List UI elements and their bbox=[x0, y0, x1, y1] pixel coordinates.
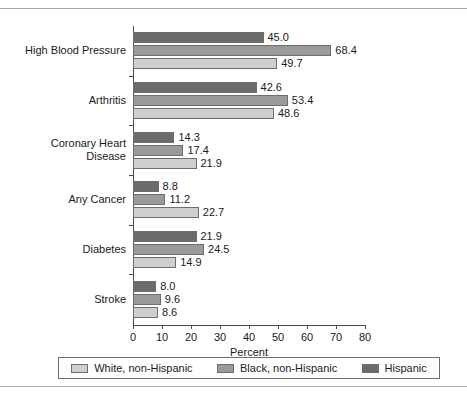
bar[interactable] bbox=[133, 281, 156, 292]
bar-row: 8.0 bbox=[133, 281, 365, 292]
x-axis-tick-label: 50 bbox=[266, 331, 290, 344]
legend-label: Hispanic bbox=[385, 362, 427, 375]
x-axis-tick bbox=[220, 325, 221, 329]
bar[interactable] bbox=[133, 181, 159, 192]
legend-item[interactable]: White, non-Hispanic bbox=[71, 362, 192, 375]
bar-row: 21.9 bbox=[133, 231, 365, 242]
bar-row: 21.9 bbox=[133, 158, 365, 169]
chart-legend: White, non-HispanicBlack, non-HispanicHi… bbox=[58, 357, 440, 379]
bar[interactable] bbox=[133, 95, 288, 106]
category-label: Any Cancer bbox=[0, 193, 126, 206]
x-axis-tick-label: 70 bbox=[324, 331, 348, 344]
bar-value-label: 8.6 bbox=[162, 305, 177, 319]
x-axis-tick bbox=[249, 325, 250, 329]
x-axis-tick-label: 40 bbox=[237, 331, 261, 344]
category-label: Coronary Heart Disease bbox=[0, 137, 126, 163]
x-axis-tick bbox=[365, 325, 366, 329]
x-axis-tick-label: 20 bbox=[179, 331, 203, 344]
bar[interactable] bbox=[133, 231, 197, 242]
bar-value-label: 14.9 bbox=[180, 255, 201, 269]
x-axis-tick bbox=[278, 325, 279, 329]
category-label: Arthritis bbox=[0, 94, 126, 107]
bar-group: 21.924.514.9 bbox=[133, 231, 365, 270]
y-axis-group-tick bbox=[129, 225, 133, 226]
bar[interactable] bbox=[133, 294, 161, 305]
bar-group: 8.811.222.7 bbox=[133, 181, 365, 220]
bar-row: 42.6 bbox=[133, 82, 365, 93]
bar-row: 14.9 bbox=[133, 257, 365, 268]
bar-row: 53.4 bbox=[133, 95, 365, 106]
x-axis-tick bbox=[336, 325, 337, 329]
legend-swatch-icon bbox=[71, 364, 88, 373]
legend-swatch-icon bbox=[217, 364, 234, 373]
bar-value-label: 17.4 bbox=[187, 143, 208, 157]
plot-area: 45.068.449.742.653.448.614.317.421.98.81… bbox=[133, 26, 365, 324]
legend-item[interactable]: Hispanic bbox=[362, 362, 427, 375]
bar-group: 14.317.421.9 bbox=[133, 132, 365, 171]
bar-chart-figure: High Blood PressureArthritisCoronary Hea… bbox=[0, 8, 467, 386]
bar-group: 8.09.68.6 bbox=[133, 281, 365, 320]
y-axis-group-tick bbox=[129, 274, 133, 275]
bar-value-label: 42.6 bbox=[261, 80, 282, 94]
bar-group: 42.653.448.6 bbox=[133, 82, 365, 121]
category-label-column: High Blood PressureArthritisCoronary Hea… bbox=[0, 26, 126, 324]
bar[interactable] bbox=[133, 194, 165, 205]
bar[interactable] bbox=[133, 145, 183, 156]
bar-value-label: 68.4 bbox=[335, 43, 356, 57]
y-axis-group-tick bbox=[129, 175, 133, 176]
bar-value-label: 11.2 bbox=[169, 192, 190, 206]
bar[interactable] bbox=[133, 244, 204, 255]
bar-value-label: 49.7 bbox=[281, 56, 302, 70]
legend-item[interactable]: Black, non-Hispanic bbox=[217, 362, 337, 375]
y-axis-group-tick bbox=[129, 125, 133, 126]
x-axis-tick-label: 0 bbox=[121, 331, 145, 344]
bar[interactable] bbox=[133, 45, 331, 56]
bar-row: 24.5 bbox=[133, 244, 365, 255]
bar[interactable] bbox=[133, 108, 274, 119]
bar-row: 49.7 bbox=[133, 58, 365, 69]
bar-value-label: 14.3 bbox=[178, 130, 199, 144]
bar-value-label: 53.4 bbox=[292, 93, 313, 107]
bar-value-label: 9.6 bbox=[165, 292, 180, 306]
bar-row: 68.4 bbox=[133, 45, 365, 56]
bar-group: 45.068.449.7 bbox=[133, 32, 365, 71]
bar-row: 22.7 bbox=[133, 207, 365, 218]
bar[interactable] bbox=[133, 207, 199, 218]
bar-value-label: 22.7 bbox=[203, 205, 224, 219]
category-label: High Blood Pressure bbox=[0, 44, 126, 57]
bar[interactable] bbox=[133, 158, 197, 169]
x-axis-tick-label: 60 bbox=[295, 331, 319, 344]
bar[interactable] bbox=[133, 32, 264, 43]
bar-row: 48.6 bbox=[133, 108, 365, 119]
bar-value-label: 21.9 bbox=[201, 229, 222, 243]
x-axis-tick-label: 10 bbox=[150, 331, 174, 344]
bar-value-label: 8.8 bbox=[163, 179, 178, 193]
figure-rule-bottom bbox=[0, 386, 467, 387]
x-axis-tick-label: 30 bbox=[208, 331, 232, 344]
x-axis-tick bbox=[307, 325, 308, 329]
category-label: Stroke bbox=[0, 293, 126, 306]
bar[interactable] bbox=[133, 82, 257, 93]
category-label: Diabetes bbox=[0, 243, 126, 256]
legend-label: White, non-Hispanic bbox=[94, 362, 192, 375]
chart-page: { "chart_data": { "type": "bar", "orient… bbox=[0, 0, 467, 395]
legend-label: Black, non-Hispanic bbox=[240, 362, 337, 375]
bar[interactable] bbox=[133, 307, 158, 318]
x-axis-tick bbox=[191, 325, 192, 329]
bar-value-label: 24.5 bbox=[208, 242, 229, 256]
x-axis-tick-label: 80 bbox=[353, 331, 377, 344]
x-axis-tick bbox=[133, 325, 134, 329]
bar-value-label: 48.6 bbox=[278, 106, 299, 120]
bar[interactable] bbox=[133, 132, 174, 143]
bar-row: 11.2 bbox=[133, 194, 365, 205]
bar-value-label: 8.0 bbox=[160, 279, 175, 293]
bar[interactable] bbox=[133, 58, 277, 69]
y-axis-group-tick bbox=[129, 76, 133, 77]
bar[interactable] bbox=[133, 257, 176, 268]
bar-value-label: 21.9 bbox=[201, 156, 222, 170]
bar-row: 8.8 bbox=[133, 181, 365, 192]
bar-row: 17.4 bbox=[133, 145, 365, 156]
bar-value-label: 45.0 bbox=[268, 30, 289, 44]
bar-row: 14.3 bbox=[133, 132, 365, 143]
bar-row: 45.0 bbox=[133, 32, 365, 43]
